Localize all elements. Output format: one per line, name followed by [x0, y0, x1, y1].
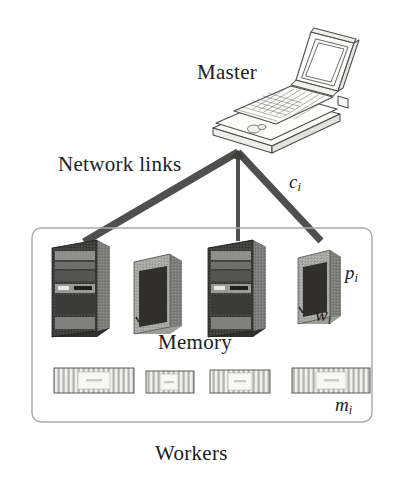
processor-label: pi: [345, 263, 358, 284]
memory-module-3: [210, 370, 270, 393]
worker-tower-1: [52, 240, 110, 337]
memory-size-symbol: m: [335, 394, 349, 415]
worker-subscript: i: [328, 313, 331, 327]
worker-label: wi: [315, 305, 331, 326]
laptop-side-port-block: [338, 96, 348, 108]
link-capacity-subscript: i: [297, 180, 300, 194]
network-links-label: Network links: [58, 154, 181, 175]
memory-size-subscript: i: [349, 403, 352, 417]
memory-module-4: [292, 368, 370, 393]
processor-subscript: i: [355, 271, 358, 285]
cluster-architecture-figure: Master Network links Memory Workers ci p…: [0, 0, 404, 477]
memory-size-label: mi: [335, 395, 352, 416]
worker-tower-3: [208, 240, 266, 337]
master-label: Master: [197, 62, 257, 83]
worker-tower-2: [134, 254, 182, 334]
workers-label: Workers: [155, 443, 228, 464]
worker-symbol: w: [315, 304, 328, 325]
link-capacity-label: ci: [289, 172, 301, 193]
memory-module-2: [146, 371, 194, 393]
memory-module-1: [54, 368, 134, 393]
processor-symbol: p: [345, 262, 355, 283]
memory-label: Memory: [158, 332, 232, 353]
master-laptop: [213, 28, 359, 153]
laptop-trackpad-button: [258, 124, 266, 129]
memory-modules-group: [54, 368, 370, 393]
